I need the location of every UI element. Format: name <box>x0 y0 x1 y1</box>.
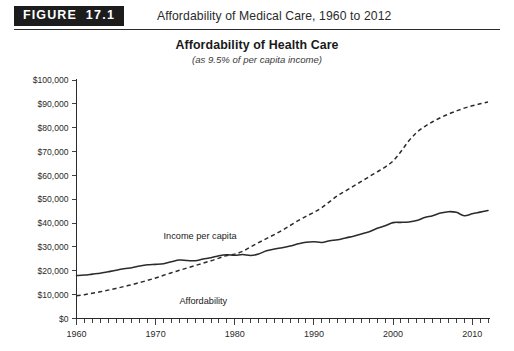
chart-plot-area: $0$10,000$20,000$30,000$40,000$50,000$60… <box>0 0 514 351</box>
y-tick-label: $10,000 <box>37 290 68 300</box>
series-line-income-per-capita <box>77 210 489 275</box>
x-tick-label: 1960 <box>66 329 86 339</box>
y-tick-label: $50,000 <box>37 194 68 204</box>
series-annotation-income-per-capita: Income per capita <box>164 231 238 241</box>
y-tick-label: $70,000 <box>37 147 68 157</box>
y-tick-label: $100,000 <box>33 75 69 85</box>
y-tick-label: $0 <box>59 314 69 324</box>
y-tick-label: $40,000 <box>37 218 68 228</box>
x-tick-label: 1990 <box>304 329 324 339</box>
series-annotation-affordability: Affordability <box>179 296 227 306</box>
x-tick-label: 1970 <box>146 329 166 339</box>
y-tick-label: $90,000 <box>37 99 68 109</box>
line-chart-svg: $0$10,000$20,000$30,000$40,000$50,000$60… <box>0 0 514 351</box>
y-tick-label: $20,000 <box>37 266 68 276</box>
figure-container: FIGURE17.1 Affordability of Medical Care… <box>0 0 514 351</box>
y-tick-label: $60,000 <box>37 171 68 181</box>
x-tick-label: 2010 <box>462 329 482 339</box>
x-tick-label: 1980 <box>225 329 245 339</box>
y-tick-label: $30,000 <box>37 242 68 252</box>
x-tick-label: 2000 <box>383 329 403 339</box>
y-tick-label: $80,000 <box>37 123 68 133</box>
